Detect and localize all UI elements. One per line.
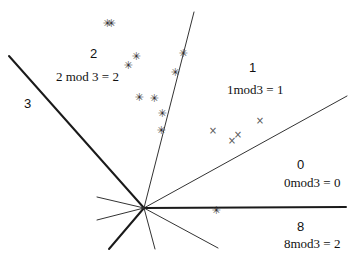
ray-upper-right xyxy=(144,96,347,208)
ray-lower-left xyxy=(109,208,144,249)
star-marker-icon: ✳ xyxy=(149,93,158,104)
region-label: 3 xyxy=(24,96,31,111)
region-label: 8 xyxy=(297,219,304,234)
mod3-sector-diagram: 322 mod 3 = 211mod3 = 100mod3 = 088mod3 … xyxy=(0,0,359,262)
star-marker-icon: ✳ xyxy=(156,125,165,136)
ray-right xyxy=(144,207,346,208)
ray-lower-right xyxy=(144,208,218,248)
region-equation: 8mod3 = 2 xyxy=(284,236,340,252)
ray-left-down xyxy=(97,208,144,220)
ray-lines xyxy=(0,0,359,262)
cross-marker-icon: × xyxy=(209,126,217,136)
star-marker-icon: ✳ xyxy=(178,48,187,59)
ray-up xyxy=(144,12,194,208)
region-label: 1 xyxy=(249,60,256,75)
star-marker-icon: ✳ xyxy=(157,108,166,119)
region-equation: 1mod3 = 1 xyxy=(227,82,283,98)
star-marker-icon: ✳ xyxy=(106,18,115,29)
star-marker-icon: ✳ xyxy=(123,60,132,71)
region-equation: 0mod3 = 0 xyxy=(284,175,340,191)
star-marker-icon: ✳ xyxy=(211,205,220,216)
region-label: 2 xyxy=(90,46,97,61)
region-equation: 2 mod 3 = 2 xyxy=(56,69,119,85)
star-marker-icon: ✳ xyxy=(170,67,179,78)
star-marker-icon: ✳ xyxy=(131,51,140,62)
star-marker-icon: ✳ xyxy=(134,92,143,103)
region-label: 0 xyxy=(297,157,304,172)
cross-marker-icon: × xyxy=(256,116,264,126)
cross-marker-icon: × xyxy=(234,130,242,140)
ray-down xyxy=(144,208,155,249)
